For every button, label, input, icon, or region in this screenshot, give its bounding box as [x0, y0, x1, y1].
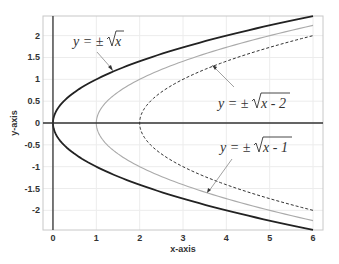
- x-tick-label: 5: [267, 233, 272, 243]
- y-tick-label: -1.5: [24, 184, 40, 194]
- y-tick-label: 2: [35, 31, 40, 41]
- svg-text:y = ±: y = ±: [216, 96, 249, 111]
- x-axis-label: x-axis: [170, 244, 196, 254]
- annotation-sqrt-x-minus-2: y = ± x - 2: [216, 93, 290, 111]
- x-tick-label: 0: [50, 233, 55, 243]
- arrow-heads: [108, 65, 217, 193]
- y-tick-label: 0.5: [27, 96, 40, 106]
- y-tick-label: -1: [32, 162, 40, 172]
- x-tick-label: 1: [94, 233, 99, 243]
- annotation-sqrt-x: y = ± x: [71, 31, 124, 49]
- x-tick-label: 6: [311, 233, 316, 243]
- x-tick-label: 4: [224, 233, 229, 243]
- y-tick-labels: 21.510.50-0.5-1-1.5-2: [24, 31, 40, 216]
- y-tick-label: -2: [32, 205, 40, 215]
- arrow-sqrt-x-minus-1: [209, 159, 232, 191]
- y-tick-label: 1: [35, 74, 40, 84]
- y-axis-label: y-axis: [9, 110, 19, 136]
- annotation-sqrt-x-minus-1: y = ± x - 1: [218, 137, 292, 155]
- y-tick-label: 1.5: [27, 52, 40, 62]
- x-tick-labels: 0123456: [50, 233, 315, 243]
- x-tick-label: 2: [137, 233, 142, 243]
- arrow-sqrt-x-minus-2: [214, 67, 234, 87]
- svg-text:x: x: [114, 34, 122, 49]
- x-tick-label: 3: [180, 233, 185, 243]
- svg-text:x - 1: x - 1: [262, 140, 288, 155]
- parabola-chart: 0123456 21.510.50-0.5-1-1.5-2 x-axis y-a…: [0, 0, 339, 264]
- svg-text:y = ±: y = ±: [71, 34, 104, 49]
- svg-text:y = ±: y = ±: [218, 140, 251, 155]
- y-tick-label: 0: [35, 118, 40, 128]
- svg-text:x - 2: x - 2: [260, 96, 286, 111]
- annotation-arrows: [97, 52, 234, 191]
- y-tick-label: -0.5: [24, 140, 40, 150]
